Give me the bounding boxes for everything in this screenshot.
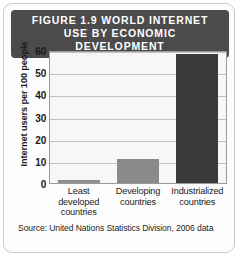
x-tick-label-line: Developing — [109, 186, 167, 197]
y-axis-ticks: 0102030405060 — [22, 51, 46, 184]
bar — [176, 54, 218, 183]
y-tick-label: 30 — [35, 112, 46, 123]
x-tick-label: Leastdevelopedcountries — [50, 186, 108, 218]
y-tick-label: 40 — [35, 90, 46, 101]
x-tick-label-line: Industrialized — [168, 186, 226, 197]
bar — [58, 180, 100, 183]
x-tick-label: Developingcountries — [109, 186, 167, 207]
x-tick-label-line: countries — [109, 197, 167, 208]
x-tick-label-line: developed — [50, 197, 108, 208]
bar-series — [50, 52, 226, 183]
x-tick-label-line: countries — [50, 207, 108, 218]
source-note: Source: United Nations Statistics Divisi… — [18, 223, 213, 233]
y-tick-label: 60 — [35, 46, 46, 57]
x-tick-label-line: countries — [168, 197, 226, 208]
plot-area — [49, 51, 227, 184]
x-tick-label: Industrializedcountries — [168, 186, 226, 207]
figure-card: FIGURE 1.9 WORLD INTERNET USE BY ECONOMI… — [3, 3, 235, 253]
bar — [117, 159, 159, 183]
x-axis-labels: LeastdevelopedcountriesDevelopingcountri… — [49, 186, 227, 218]
chart-area: Internet users per 100 people 0102030405… — [4, 44, 236, 214]
x-tick-label-line: Least — [50, 186, 108, 197]
y-tick-label: 50 — [35, 68, 46, 79]
y-tick-label: 20 — [35, 134, 46, 145]
y-tick-label: 10 — [35, 156, 46, 167]
y-tick-label: 0 — [41, 179, 46, 190]
